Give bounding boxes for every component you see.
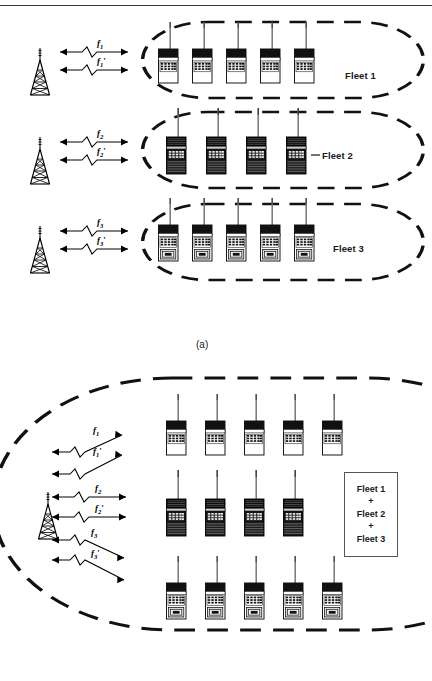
- radio-icon: [287, 108, 307, 174]
- radio-icon: [159, 22, 179, 83]
- radio-icon: [245, 394, 265, 455]
- freq-label-f3-prime: f3′: [97, 235, 106, 247]
- radio-icon: [295, 22, 315, 83]
- radio-icon: [245, 556, 265, 619]
- tower-icon-3: [31, 226, 50, 273]
- link-arrows-f3: [60, 226, 128, 254]
- radio-icon: [295, 198, 315, 261]
- link-arrows-f2: [60, 137, 128, 165]
- freq-label-b-f2: f2: [95, 483, 101, 495]
- fleet-boundary-1: [143, 22, 424, 98]
- tower-icon-2: [31, 137, 50, 184]
- radio-icon: [206, 470, 226, 536]
- radio-icon: [167, 556, 187, 619]
- radio-icon: [323, 556, 343, 619]
- radio-icon: [245, 470, 265, 536]
- fleet-boundary-3: [143, 204, 424, 280]
- freq-label-b-f3: f3: [91, 527, 97, 539]
- radio-icon: [247, 108, 267, 174]
- figure-canvas: f1 f1′ f2 f2′ f3 f3′ Fleet 1 Fleet 2 Fle…: [0, 0, 432, 681]
- legend-plus-1: +: [368, 497, 373, 506]
- radio-icon: [193, 198, 213, 261]
- radio-icon: [227, 198, 247, 261]
- radio-icon: [206, 556, 226, 619]
- radio-icon: [261, 22, 281, 83]
- radio-icon: [227, 22, 247, 83]
- radio-icon: [159, 198, 179, 261]
- freq-label-b-f2-prime: f2′: [95, 503, 104, 515]
- freq-label-f3: f3: [97, 217, 103, 229]
- radio-icon: [167, 470, 187, 536]
- fleet-label-2: Fleet 2: [322, 150, 353, 161]
- panel-a-system-3: [31, 198, 424, 280]
- radio-icon: [284, 470, 304, 536]
- radio-icon: [284, 394, 304, 455]
- fleet-label-3: Fleet 3: [333, 243, 364, 254]
- panel-a-system-2: [31, 108, 424, 188]
- freq-label-b-f1: f1: [93, 425, 99, 437]
- freq-label-f2-prime: f2′: [97, 146, 106, 158]
- radio-icon: [284, 556, 304, 619]
- combined-fleet-legend-box: Fleet 1 + Fleet 2 + Fleet 3: [344, 472, 398, 557]
- radio-icon: [207, 108, 227, 174]
- fleet-label-1: Fleet 1: [345, 70, 376, 81]
- diagram-vector-layer: [0, 0, 432, 681]
- freq-label-b-f3-prime: f3′: [91, 548, 100, 560]
- freq-label-f1: f1: [97, 38, 103, 50]
- legend-plus-2: +: [368, 522, 373, 531]
- radio-icon: [261, 198, 281, 261]
- radio-icon: [193, 22, 213, 83]
- tower-icon-1: [31, 48, 50, 95]
- radio-icon: [323, 394, 343, 455]
- radio-icon: [206, 394, 226, 455]
- legend-fleet-2: Fleet 2: [357, 510, 386, 519]
- tower-icon-4: [39, 492, 58, 539]
- freq-label-b-f1-prime: f1′: [93, 446, 102, 458]
- trunked-link-arrows: [52, 435, 126, 580]
- radio-icon: [167, 394, 187, 455]
- link-arrows-f1: [60, 47, 128, 75]
- freq-label-f2: f2: [97, 128, 103, 140]
- legend-fleet-1: Fleet 1: [357, 485, 386, 494]
- panel-a-system-1: [31, 22, 424, 98]
- panel-a-caption: (a): [196, 339, 208, 350]
- freq-label-f1-prime: f1′: [97, 56, 106, 68]
- legend-fleet-3: Fleet 3: [357, 535, 386, 544]
